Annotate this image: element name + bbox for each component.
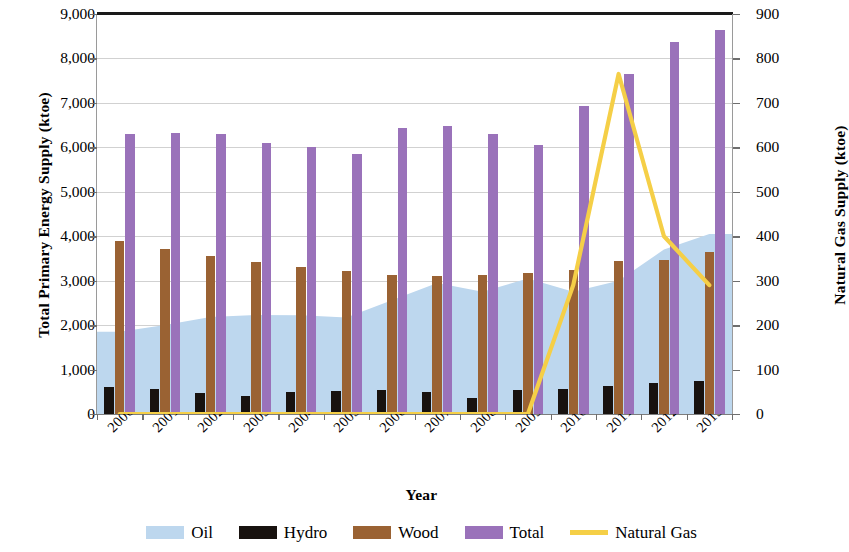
legend-item[interactable]: Wood — [353, 524, 438, 541]
bar-hydro — [286, 392, 296, 414]
bar-hydro — [649, 383, 659, 414]
bar-wood — [523, 273, 533, 414]
y-axis-right-tick-label: 100 — [756, 362, 779, 378]
chart-legend: OilHydroWoodTotalNatural Gas — [0, 524, 843, 541]
bar-wood — [206, 256, 216, 414]
x-axis-tick-mark — [460, 414, 461, 420]
y-axis-left-tick-mark — [90, 370, 97, 371]
bar-hydro — [694, 381, 704, 414]
y-axis-left-tick-mark — [90, 414, 97, 415]
y-axis-right-tick-label: 600 — [756, 139, 779, 155]
y-axis-left-tick-mark — [90, 236, 97, 237]
legend-label: Natural Gas — [615, 524, 697, 541]
bar-total — [171, 133, 181, 414]
bar-wood — [432, 276, 442, 414]
bar-wood — [342, 271, 352, 414]
legend-label: Wood — [398, 524, 438, 541]
y-axis-right-tick-mark — [733, 414, 740, 415]
x-axis-tick-mark — [278, 414, 279, 420]
bar-hydro — [603, 386, 613, 414]
y-axis-left-tick-mark — [90, 192, 97, 193]
x-axis-tick-mark — [188, 414, 189, 420]
bar-hydro — [150, 389, 160, 414]
y-axis-right-tick-label: 400 — [756, 228, 779, 244]
y-axis-left-tick-mark — [90, 281, 97, 282]
y-axis-right-tick-mark — [733, 103, 740, 104]
bar-total — [216, 134, 226, 414]
bar-hydro — [241, 396, 251, 414]
x-axis-tick-mark — [415, 414, 416, 420]
plot-area — [97, 14, 732, 414]
x-axis-tick-mark — [142, 414, 143, 420]
y-axis-left-tick-mark — [90, 14, 97, 15]
y-axis-left-tick-mark — [90, 325, 97, 326]
y-axis-right-tick-label: 0 — [756, 406, 764, 422]
bar-total — [352, 154, 362, 414]
legend-swatch-hydro — [239, 526, 277, 539]
legend-swatch-natural-gas — [570, 530, 608, 535]
bar-total — [262, 143, 272, 414]
x-axis-tick-mark — [687, 414, 688, 420]
legend-swatch-total — [465, 526, 503, 539]
bar-wood — [569, 270, 579, 414]
legend-item[interactable]: Oil — [146, 524, 213, 541]
y-axis-right-tick-label: 700 — [756, 95, 779, 111]
x-axis-tick-mark — [369, 414, 370, 420]
legend-item[interactable]: Natural Gas — [570, 524, 697, 541]
y-axis-right-tick-label: 500 — [756, 184, 779, 200]
bar-hydro — [195, 393, 205, 414]
bar-total — [715, 30, 725, 414]
bar-wood — [705, 252, 715, 414]
bar-wood — [614, 261, 624, 414]
bar-hydro — [104, 387, 114, 414]
x-axis-tick-mark — [97, 414, 98, 420]
y-axis-left-title: Total Primary Energy Supply (ktoe) — [35, 75, 53, 355]
bar-wood — [387, 275, 397, 414]
y-axis-right-tick-label: 900 — [756, 6, 779, 22]
legend-swatch-oil — [146, 526, 184, 539]
bar-hydro — [331, 391, 341, 414]
bar-total — [443, 126, 453, 414]
legend-label: Hydro — [284, 524, 327, 541]
bar-total — [488, 134, 498, 414]
bar-total — [398, 128, 408, 414]
y-axis-left-tick-mark — [90, 103, 97, 104]
x-axis-tick-mark — [596, 414, 597, 420]
bar-total — [534, 145, 544, 414]
bar-total — [624, 74, 634, 414]
x-axis-tick-mark — [732, 414, 733, 420]
legend-label: Oil — [191, 524, 213, 541]
legend-label: Total — [510, 524, 545, 541]
bar-hydro — [377, 390, 387, 414]
x-axis-tick-mark — [641, 414, 642, 420]
bar-wood — [251, 262, 261, 414]
bar-hydro — [467, 398, 477, 414]
y-axis-right-tick-mark — [733, 147, 740, 148]
y-axis-right-tick-mark — [733, 281, 740, 282]
y-axis-right-tick-mark — [733, 236, 740, 237]
y-axis-right-title: Natural Gas Supply (ktoe) — [831, 75, 849, 355]
bar-hydro — [558, 389, 568, 414]
y-axis-right-tick-label: 300 — [756, 273, 779, 289]
bar-total — [125, 134, 135, 414]
y-axis-right-tick-label: 200 — [756, 317, 779, 333]
y-axis-right-tick-mark — [733, 192, 740, 193]
y-axis-right-tick-mark — [733, 58, 740, 59]
bar-wood — [478, 275, 488, 414]
bar-wood — [115, 241, 125, 414]
y-axis-left-tick-mark — [90, 58, 97, 59]
bar-hydro — [422, 392, 432, 414]
bar-wood — [296, 267, 306, 414]
series-bars — [97, 14, 732, 414]
legend-swatch-wood — [353, 526, 391, 539]
x-axis-title: Year — [0, 486, 843, 504]
y-axis-right-tick-label: 800 — [756, 50, 779, 66]
y-axis-right-tick-mark — [733, 370, 740, 371]
legend-item[interactable]: Total — [465, 524, 545, 541]
legend-item[interactable]: Hydro — [239, 524, 327, 541]
x-axis-tick-mark — [505, 414, 506, 420]
y-axis-right-tick-mark — [733, 325, 740, 326]
bar-wood — [160, 249, 170, 414]
y-axis-right-tick-mark — [733, 14, 740, 15]
